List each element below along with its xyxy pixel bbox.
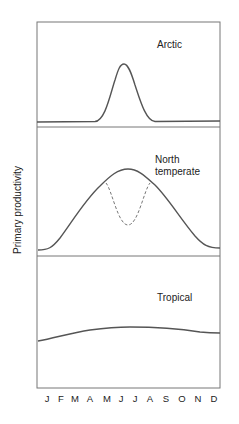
month-label: J: [133, 393, 138, 404]
arctic-label: Arctic: [157, 39, 182, 50]
tropical-curve: [38, 327, 220, 341]
month-label: M: [71, 393, 79, 404]
month-label: A: [87, 393, 94, 404]
month-label: F: [58, 393, 64, 404]
x-axis-month-labels: J F M A M J J A S O N D: [45, 393, 218, 404]
chart-frame: [37, 22, 220, 388]
temperate-dashed-dip: [106, 183, 150, 225]
arctic-curve: [37, 64, 220, 122]
month-label: A: [147, 393, 154, 404]
temperate-label-line1: North: [155, 154, 179, 165]
temperate-curve: [38, 169, 220, 250]
temperate-label-line2: temperate: [155, 166, 200, 177]
month-label: S: [163, 393, 169, 404]
month-label: O: [178, 393, 185, 404]
month-label: J: [45, 393, 50, 404]
month-label: D: [211, 393, 218, 404]
month-label: M: [103, 393, 111, 404]
month-label: J: [119, 393, 124, 404]
seasonal-productivity-chart: Arctic North temperate Tropical Primary …: [0, 0, 239, 424]
tropical-label: Tropical: [157, 292, 192, 303]
y-axis-label: Primary productivity: [12, 166, 23, 254]
month-label: N: [195, 393, 202, 404]
